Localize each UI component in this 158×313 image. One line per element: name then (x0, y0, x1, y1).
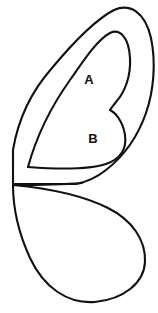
region-label-a: A (84, 72, 94, 87)
butterfly-diagram: A B (0, 0, 158, 313)
region-label-b: B (88, 131, 97, 146)
figure-canvas: A B (0, 0, 158, 313)
background-rect (0, 0, 158, 313)
